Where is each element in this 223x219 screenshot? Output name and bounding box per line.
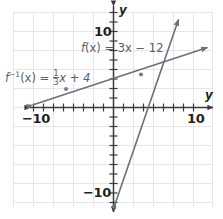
data-point (139, 72, 143, 76)
y-tick-label-pos-ten: 10 (94, 25, 112, 38)
y-axis-label: y (205, 89, 213, 101)
x-axis (30, 104, 213, 112)
f-equation-body: 3x − 12 (118, 41, 164, 55)
x-tick-label-neg-ten: −10 (22, 112, 50, 125)
y-axis-glyph: y (119, 4, 127, 16)
f-equation-annotation: f(x) = 3x − 12 (81, 43, 164, 55)
f-equation-arg: (x) = (85, 41, 114, 55)
f-inverse-exponent: −1 (9, 70, 20, 79)
x-tick-label-pos-ten: 10 (187, 112, 205, 125)
fraction-numerator: 1 (53, 69, 58, 78)
f-inverse-equation-annotation: f−1(x) = 13x + 4 (5, 69, 90, 88)
graph-figure: y −10 10 10 −10 f(x) = 3x − 12 f−1(x) = … (0, 0, 223, 219)
y-tick-label-neg-ten: −10 (83, 186, 111, 199)
f-inverse-tail: x + 4 (59, 71, 90, 85)
fraction-denominator: 3 (53, 77, 58, 87)
one-third-fraction: 13 (53, 69, 58, 88)
f-inverse-arg: (x) = (20, 71, 49, 85)
